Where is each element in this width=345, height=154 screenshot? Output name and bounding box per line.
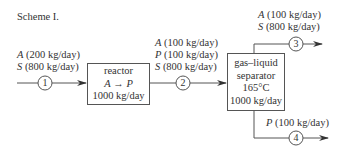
separator-capacity: 1000 kg/day [230,95,282,108]
reactor-reaction: A → P [104,78,133,91]
stream-2-number: 2 [176,76,190,90]
reactor-capacity: 1000 kg/day [92,90,144,103]
rate: (100 kg/day) [164,37,218,48]
stream-4-number: 4 [289,131,303,145]
stream-3-number: 3 [289,37,303,51]
rate: (100 kg/day) [267,9,321,20]
species: A [258,9,264,20]
separator-name-1: gas–liquid [234,57,278,70]
rate: (800 kg/day) [163,61,217,72]
species: S [155,61,160,72]
species: S [17,61,22,72]
species: A [155,37,161,48]
rate: (800 kg/day) [266,21,320,32]
reaction-arrow-icon: → [113,78,124,89]
species: A [17,49,23,60]
reactant: A [104,78,110,89]
stream-4-label: P (100 kg/day) [266,117,329,129]
species: P [155,49,161,60]
rate: (100 kg/day) [164,49,218,60]
stream-2-label: A (100 kg/day) P (100 kg/day) S (800 kg/… [155,37,218,73]
reactor-box: reactor A → P 1000 kg/day [87,63,150,105]
separator-temperature: 165°C [243,82,270,95]
rate: (800 kg/day) [25,61,79,72]
stream-3-label: A (100 kg/day) S (800 kg/day) [258,9,321,33]
rate: (100 kg/day) [275,117,329,128]
separator-name-2: separator [237,70,275,83]
reactor-name: reactor [104,65,133,78]
species: S [258,21,263,32]
stream-1-label: A (200 kg/day) S (800 kg/day) [17,49,80,73]
rate: (200 kg/day) [26,49,80,60]
separator-box: gas–liquid separator 165°C 1000 kg/day [227,53,285,111]
stream-1-number: 1 [38,76,52,90]
species: P [266,117,272,128]
product: P [126,78,132,89]
